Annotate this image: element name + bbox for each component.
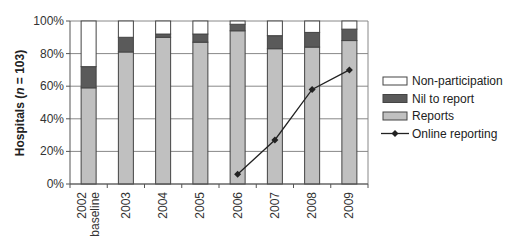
legend-label: Online reporting [412,127,497,141]
gridlines [70,21,368,184]
bar-segment-nil-to-report [81,67,96,88]
bar-segment-reports [81,88,96,184]
x-tick-label: 2008 [305,192,319,219]
bar-segment-non-participation [156,21,171,34]
line-path [238,70,350,174]
diamond-marker-icon [392,130,399,137]
y-axis-ticks: 0%20%40%60%80%100% [33,14,70,191]
bar-segment-reports [156,37,171,184]
bar-segment-non-participation [305,21,320,32]
legend-label: Reports [412,109,454,123]
bar-segment-reports [118,52,133,184]
bar-segment-reports [230,31,245,184]
x-tick-label: baseline [88,192,102,237]
y-tick-label: 20% [40,144,64,158]
bar-segment-nil-to-report [267,36,282,49]
bar-segment-reports [342,41,357,184]
y-tick-label: 60% [40,79,64,93]
bars [81,21,357,184]
legend-item: Nil to report [383,92,475,106]
x-axis-ticks: 2002baseline2003200420052006200720082009 [70,184,368,237]
legend-swatch-icon [383,95,407,103]
bar-segment-nil-to-report [342,29,357,40]
x-tick-label: 2006 [231,192,245,219]
bar-segment-nil-to-report [118,37,133,52]
bar-segment-reports [305,47,320,184]
bar-segment-nil-to-report [230,24,245,31]
bar-segment-non-participation [193,21,208,34]
axes [70,21,368,184]
y-tick-label: 100% [33,14,64,28]
legend-label: Non-participation [412,74,503,88]
x-tick-label: 2005 [193,192,207,219]
legend-item: Online reporting [381,127,497,141]
bar-segment-non-participation [118,21,133,37]
legend-swatch-icon [383,112,407,120]
bar-segment-non-participation [81,21,96,67]
x-tick-label: 2003 [119,192,133,219]
bar-segment-non-participation [267,21,282,36]
x-tick-label: 2004 [156,192,170,219]
bar-segment-non-participation [230,21,245,24]
bar-segment-non-participation [342,21,357,29]
online-reporting-line [234,66,353,177]
x-tick-label: 2002 [75,192,89,219]
legend-label: Nil to report [412,92,475,106]
bar-segment-nil-to-report [305,32,320,47]
y-tick-label: 80% [40,47,64,61]
y-tick-label: 40% [40,112,64,126]
legend-swatch-icon [383,77,407,85]
stacked-bar-chart: 0%20%40%60%80%100% 2002baseline200320042… [0,0,508,243]
y-tick-label: 0% [47,177,65,191]
x-tick-label: 2007 [268,192,282,219]
bar-segment-reports [267,49,282,184]
bar-segment-reports [193,42,208,184]
y-axis-label: Hospitals (n = 103) [13,50,27,156]
x-tick-label: 2009 [342,192,356,219]
legend-item: Non-participation [383,74,503,88]
bar-segment-nil-to-report [193,34,208,42]
legend-item: Reports [383,109,454,123]
legend: Non-participationNil to reportReportsOnl… [381,74,503,141]
